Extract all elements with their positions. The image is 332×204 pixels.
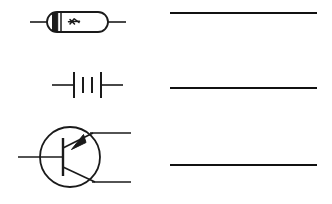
symbols-canvas: [0, 0, 332, 204]
answer-text-3[interactable]: [170, 150, 317, 164]
worksheet-page: [0, 0, 332, 204]
pnp-transistor-symbol: [18, 127, 131, 187]
transistor-collector-diagonal: [63, 167, 95, 182]
diode-symbol: [30, 12, 126, 32]
diode-cathode-band: [53, 13, 58, 31]
answer-text-2[interactable]: [170, 73, 317, 87]
diode-type-marking: [69, 19, 80, 24]
answer-text-1[interactable]: [170, 0, 317, 12]
battery-symbol: [52, 72, 123, 98]
